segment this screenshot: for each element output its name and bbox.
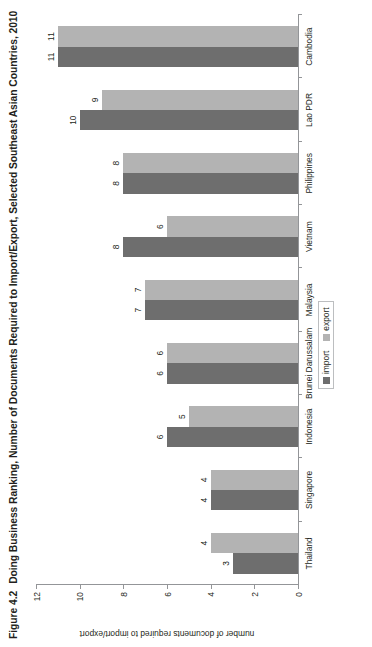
bar-import: 8 [123,173,298,193]
bar-value-label: 8 [111,244,121,249]
category-axis-tick [298,457,302,458]
figure-container: Figure 4.2Doing Business Ranking, Number… [0,0,372,647]
bar-value-label: 8 [111,161,121,166]
bar-export: 5 [189,406,298,426]
bar-group: 1111Cambodia [36,26,298,67]
bar-export: 4 [211,470,298,490]
category-axis-tick [298,204,302,205]
category-axis-tick [298,521,302,522]
bar-value-label: 7 [133,288,143,293]
category-axis-tick [298,394,302,395]
category-label: Lao PDR [304,73,314,147]
bar-import: 6 [167,363,298,383]
figure-title: Figure 4.2Doing Business Ranking, Number… [8,9,19,639]
bar-value-label: 6 [155,351,165,356]
category-label: Malaysia [304,263,314,337]
bar-value-label: 6 [155,224,165,229]
value-axis-tick-label: 0 [294,592,304,597]
legend-item-import: import [321,351,331,384]
legend-label-import: import [321,351,331,374]
bar-export: 9 [102,90,299,110]
bar-value-label: 3 [221,561,231,566]
category-axis-tick [298,141,302,142]
bar-value-label: 4 [199,541,209,546]
bar-import: 4 [211,490,298,510]
category-axis-tick [298,77,302,78]
rotated-page-canvas: Figure 4.2Doing Business Ranking, Number… [0,0,372,647]
bar-value-label: 4 [199,478,209,483]
bar-value-label: 9 [90,98,100,103]
figure-number: Figure 4.2 [8,591,19,639]
bar-value-label: 6 [155,371,165,376]
chart-legend: import export [318,301,334,389]
category-label: Thailand [304,516,314,590]
category-label: Indonesia [304,390,314,464]
bar-value-label: 8 [111,181,121,186]
value-axis-tick: 6 [167,585,168,589]
bar-export: 11 [58,26,298,46]
bar-group: 77Malaysia [36,280,298,321]
bar-export: 6 [167,343,298,363]
bar-value-label: 7 [133,308,143,313]
bar-import: 3 [233,553,299,573]
bar-value-label: 10 [68,115,78,124]
legend-swatch-import-icon [323,377,330,384]
value-axis-tick: 10 [80,585,81,589]
plot-area: number of documents required to import/e… [36,15,298,585]
bar-value-label: 11 [46,32,56,41]
legend-label-export: export [321,307,331,330]
value-axis-tick: 12 [36,585,37,589]
category-label: Cambodia [304,10,314,84]
bar-group: 86Vietnam [36,216,298,257]
bar-export: 7 [145,280,298,300]
value-axis-tick: 0 [298,585,299,589]
bar-group: 88Philippines [36,153,298,194]
value-axis-tick: 4 [211,585,212,589]
bar-import: 6 [167,427,298,447]
bar-value-label: 6 [155,434,165,439]
value-axis-tick-label: 6 [163,592,173,597]
category-axis-tick [298,267,302,268]
category-label: Philippines [304,136,314,210]
bar-group: 109Lao PDR [36,90,298,131]
value-axis-tick-label: 2 [250,592,260,597]
bar-import: 8 [123,237,298,257]
bar-value-label: 5 [177,414,187,419]
legend-swatch-export-icon [323,334,330,341]
value-axis-tick-label: 10 [75,592,85,601]
bar-value-label: 11 [46,52,56,61]
bar-group: 44Singapore [36,470,298,511]
bar-export: 4 [211,533,298,553]
category-label: Singapore [304,453,314,527]
bar-group: 65Indonesia [36,406,298,447]
bar-value-label: 4 [199,498,209,503]
figure-title-text: Doing Business Ranking, Number of Docume… [8,11,19,584]
value-axis-tick-label: 4 [206,592,216,597]
bar-group: 66Brunei Darussalam [36,343,298,384]
value-axis-tick: 2 [254,585,255,589]
category-axis-tick [298,14,302,15]
bar-import: 10 [80,110,298,130]
bar-import: 11 [58,47,298,67]
value-axis-tick-label: 12 [32,592,42,601]
category-axis-tick [298,331,302,332]
value-axis-title: number of documents required to import/e… [80,629,255,639]
bar-import: 7 [145,300,298,320]
bar-group: 34Thailand [36,533,298,574]
bar-export: 8 [123,153,298,173]
legend-item-export: export [321,307,331,340]
value-axis-tick-label: 8 [119,592,129,597]
category-axis-line [298,15,299,585]
value-axis-tick: 8 [123,585,124,589]
category-label: Brunei Darussalam [304,326,314,400]
bar-export: 6 [167,216,298,236]
category-label: Vietnam [304,200,314,274]
